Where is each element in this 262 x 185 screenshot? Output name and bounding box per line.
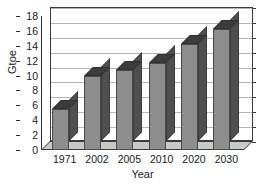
bars-layer xyxy=(41,16,244,150)
bar-2002 xyxy=(84,67,101,150)
y-axis-tick-mark xyxy=(16,46,20,47)
y-axis-right-tick xyxy=(252,127,256,128)
y-axis-tick-mark xyxy=(16,120,20,121)
y-axis-right-tick xyxy=(252,112,256,113)
x-axis-tick-label: 2005 xyxy=(118,153,141,165)
bar-side-face xyxy=(198,26,207,141)
bar-front-face xyxy=(116,70,133,150)
y-axis-tick-mark xyxy=(16,150,20,151)
bar-1971 xyxy=(52,100,69,150)
x-axis-tick-label: 2002 xyxy=(85,153,108,165)
x-axis-tick-label: 2010 xyxy=(150,153,173,165)
y-axis-tick-mark xyxy=(16,105,20,106)
y-axis-right-tick xyxy=(252,68,256,69)
bar-2030 xyxy=(213,20,230,150)
y-axis-right-tick xyxy=(252,53,256,54)
y-axis-tick-mark xyxy=(16,135,20,136)
bar-front-face xyxy=(52,109,69,150)
y-axis-tick-mark xyxy=(16,90,20,91)
y-axis-right-tick xyxy=(252,23,256,24)
x-axis-tick-labels: 197120022005201020202030 xyxy=(41,153,253,167)
bar-chart: Gtoe 181614121086420 1971200220052010202… xyxy=(0,0,262,185)
y-axis-tick-mark xyxy=(16,16,20,17)
x-axis-tick-label: 1971 xyxy=(53,153,76,165)
bar-front-face xyxy=(181,44,198,150)
y-axis-tick-mark xyxy=(16,61,20,62)
gridline xyxy=(51,8,252,9)
y-axis-right-tick xyxy=(252,82,256,83)
bar-side-face xyxy=(230,11,239,141)
bar-front-face xyxy=(149,63,166,150)
y-axis-tick-mark xyxy=(16,31,20,32)
y-axis-right-tick xyxy=(252,38,256,39)
y-axis-tick-labels: 181614121086420 xyxy=(16,7,38,155)
bar-2020 xyxy=(181,35,198,150)
bar-front-face xyxy=(213,29,230,150)
bar-2010 xyxy=(149,54,166,150)
y-axis-tick-mark xyxy=(16,76,20,77)
y-axis-right-tick xyxy=(252,142,256,143)
x-axis-tick-label: 2030 xyxy=(215,153,238,165)
y-axis-right-tick xyxy=(252,97,256,98)
bar-front-face xyxy=(84,76,101,150)
y-axis-right-tick xyxy=(252,8,256,9)
bar-side-face xyxy=(69,91,78,141)
bar-2005 xyxy=(116,61,133,150)
x-axis-title: Year xyxy=(41,168,244,180)
x-axis-tick-label: 2020 xyxy=(182,153,205,165)
plot-area xyxy=(41,7,253,155)
